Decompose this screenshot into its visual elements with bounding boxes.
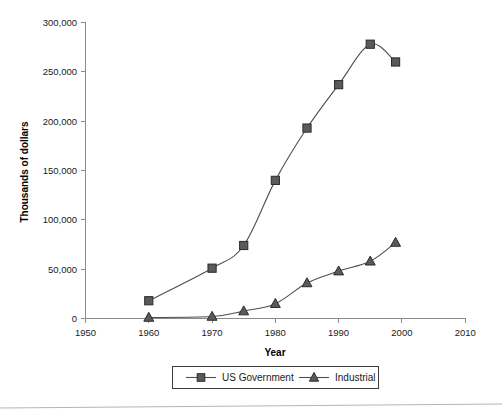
x-tick-label-1960: 1960	[138, 327, 159, 338]
chart-legend: US Government Industrial	[173, 367, 379, 389]
legend-label-us-government: US Government	[222, 372, 294, 383]
legend-label-industrial: Industrial	[335, 372, 376, 383]
data-point-triangle	[302, 278, 312, 287]
data-point-square	[208, 264, 216, 272]
data-point-square	[240, 241, 248, 249]
data-point-triangle	[391, 237, 401, 246]
x-tick-label-1970: 1970	[201, 327, 222, 338]
legend-square-marker-icon	[197, 374, 205, 382]
data-point-triangle	[144, 312, 154, 321]
x-tick-label-1990: 1990	[328, 327, 349, 338]
data-point-square	[145, 297, 153, 305]
y-tick-label-150000: 150,000	[43, 165, 77, 176]
data-point-square	[271, 176, 279, 184]
data-point-triangle	[270, 299, 280, 308]
data-point-square	[366, 40, 374, 48]
x-tick-label-2010: 2010	[455, 327, 476, 338]
series-line-0	[149, 44, 396, 301]
chart-container: 300,000 250,000 200,000 150,000 100,000 …	[0, 0, 502, 420]
x-axis-title: Year	[264, 347, 285, 358]
data-point-square	[391, 58, 399, 66]
y-tick-label-50000: 50,000	[48, 264, 77, 275]
y-tick-label-200000: 200,000	[43, 116, 77, 127]
line-chart: 300,000 250,000 200,000 150,000 100,000 …	[0, 0, 502, 420]
series-industrial	[144, 237, 401, 321]
y-axis-ticks	[81, 23, 86, 319]
y-axis-title: Thousands of dollars	[19, 121, 30, 223]
data-point-square	[303, 124, 311, 132]
x-tick-label-1950: 1950	[75, 327, 96, 338]
x-axis-ticks	[86, 319, 466, 324]
series-layer	[144, 40, 401, 321]
y-tick-label-100000: 100,000	[43, 214, 77, 225]
legend-entry-us-government[interactable]: US Government	[186, 372, 294, 383]
data-point-square	[335, 81, 343, 89]
y-tick-label-0: 0	[72, 313, 77, 324]
x-tick-label-2000: 2000	[391, 327, 412, 338]
y-tick-label-300000: 300,000	[43, 17, 77, 28]
x-tick-label-1980: 1980	[265, 327, 286, 338]
footer-divider	[0, 404, 502, 408]
data-point-triangle	[365, 256, 375, 265]
y-tick-label-250000: 250,000	[43, 66, 77, 77]
